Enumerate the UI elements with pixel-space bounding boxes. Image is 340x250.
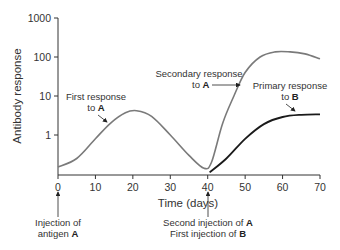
x-tick-label: 10 — [90, 181, 102, 193]
annotation-secondary-response-a: Secondary response to A — [155, 68, 242, 90]
x-tick-label: 30 — [164, 181, 176, 193]
x-axis-title: Time (days) — [158, 197, 218, 209]
arrow-icon — [98, 115, 107, 122]
x-tick-label: 70 — [314, 181, 326, 193]
svg-text:to A: to A — [192, 79, 210, 90]
svg-text:antigen A: antigen A — [38, 228, 79, 239]
series-b-line — [210, 114, 320, 172]
svg-text:to B: to B — [281, 91, 299, 102]
x-tick-label: 50 — [239, 181, 251, 193]
annotation-primary-response-b: Primary response to B — [253, 80, 327, 111]
y-tick-label: 100 — [33, 51, 51, 63]
antibody-response-chart: Antibody response 1101001000 01020304050… — [0, 0, 340, 250]
x-tick-label: 60 — [277, 181, 289, 193]
y-axis-title: Antibody response — [11, 48, 23, 143]
svg-text:Secondary response: Secondary response — [155, 68, 242, 79]
x-tick-label: 0 — [55, 181, 61, 193]
svg-text:Second injection of A: Second injection of A — [163, 217, 253, 228]
y-ticks: 1101001000 — [28, 12, 58, 141]
y-tick-label: 1000 — [28, 12, 52, 24]
svg-text:to A: to A — [87, 102, 105, 113]
x-tick-label: 20 — [127, 181, 139, 193]
annotation-injection-a: Injection of antigen A — [35, 192, 81, 239]
arrow-icon — [286, 104, 295, 111]
svg-text:Injection of: Injection of — [35, 217, 81, 228]
axes: 1101001000 010203040506070 — [28, 12, 326, 193]
svg-text:First response: First response — [66, 91, 126, 102]
svg-text:First injection of B: First injection of B — [170, 228, 246, 239]
y-tick-label: 10 — [39, 90, 51, 102]
svg-text:Primary response: Primary response — [253, 80, 327, 91]
y-tick-label: 1 — [45, 129, 51, 141]
x-ticks: 010203040506070 — [55, 175, 326, 193]
x-tick-label: 40 — [202, 181, 214, 193]
